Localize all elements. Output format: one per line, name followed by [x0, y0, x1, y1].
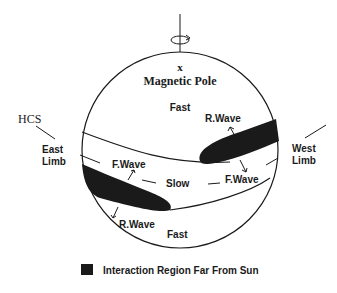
fast-bottom-label: Fast	[167, 229, 188, 240]
west-limb-label-2: Limb	[292, 155, 316, 166]
slow-label: Slow	[166, 178, 190, 189]
east-limb-label-1: East	[42, 144, 64, 155]
west-pointer	[305, 125, 326, 138]
hcs-label: HCS	[18, 112, 41, 126]
heliosphere-diagram: x Magnetic Pole Fast R.Wave HCS East Lim…	[0, 0, 337, 293]
r-wave-bottom-label: R.Wave	[119, 219, 155, 230]
legend-swatch	[81, 264, 93, 275]
west-limb-label-1: West	[292, 143, 316, 154]
pole-marker: x	[177, 61, 183, 73]
legend-label: Interaction Region Far From Sun	[103, 265, 259, 276]
magnetic-pole-label: Magnetic Pole	[144, 74, 218, 88]
fast-top-label: Fast	[170, 102, 191, 113]
f-wave-right-label: F.Wave	[225, 174, 259, 185]
hcs-pointer	[36, 126, 55, 139]
f-wave-left-label: F.Wave	[112, 159, 146, 170]
r-wave-top-label: R.Wave	[205, 113, 241, 124]
east-limb-label-2: Limb	[42, 156, 66, 167]
